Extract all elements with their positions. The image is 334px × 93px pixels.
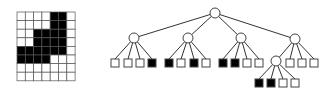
grid-cell-filled bbox=[34, 38, 42, 47]
grid-cell-empty bbox=[25, 21, 33, 30]
leaf-filled bbox=[148, 59, 156, 67]
leaf-filled bbox=[190, 59, 198, 67]
tree-nodes bbox=[129, 8, 300, 66]
grid-cell-filled bbox=[59, 29, 67, 38]
tree-leaves bbox=[111, 59, 318, 87]
grid-cell-filled bbox=[59, 38, 67, 47]
grid-cell-filled bbox=[17, 55, 25, 64]
grid-cell-filled bbox=[42, 38, 50, 47]
grid-cell-empty bbox=[25, 38, 33, 47]
grid-cell-empty bbox=[59, 72, 67, 81]
tree-node-nw bbox=[129, 33, 139, 43]
grid-cell-empty bbox=[17, 64, 25, 73]
grid-cell-empty bbox=[25, 72, 33, 81]
leaf-empty bbox=[202, 59, 210, 67]
leaf-empty bbox=[111, 59, 119, 67]
grid-cell-filled bbox=[50, 21, 58, 30]
grid-cell-filled bbox=[34, 46, 42, 55]
grid-cell-filled bbox=[50, 38, 58, 47]
quadtree-figure bbox=[0, 0, 334, 93]
grid-cell-empty bbox=[17, 72, 25, 81]
grid-cell-empty bbox=[50, 55, 58, 64]
grid-cell-empty bbox=[50, 64, 58, 73]
grid-cell-empty bbox=[67, 38, 75, 47]
grid-cell-filled bbox=[50, 29, 58, 38]
leaf-empty bbox=[124, 59, 132, 67]
leaf-filled bbox=[255, 79, 263, 87]
tree-edge bbox=[215, 13, 295, 39]
grid-cell-empty bbox=[67, 12, 75, 21]
grid-cell-empty bbox=[67, 55, 75, 64]
grid-cell-empty bbox=[67, 64, 75, 73]
tree-edges bbox=[115, 13, 314, 79]
grid-cell-empty bbox=[67, 46, 75, 55]
grid-cell-empty bbox=[34, 64, 42, 73]
tree-node-se bbox=[290, 34, 300, 44]
grid-cell-empty bbox=[34, 21, 42, 30]
grid-cell-empty bbox=[42, 12, 50, 21]
grid-cell-empty bbox=[25, 29, 33, 38]
grid-cell-empty bbox=[34, 12, 42, 21]
leaf-empty bbox=[136, 59, 144, 67]
grid-cell-empty bbox=[67, 72, 75, 81]
grid-cell-filled bbox=[50, 46, 58, 55]
leaf-empty bbox=[310, 59, 318, 67]
grid-cell-filled bbox=[42, 46, 50, 55]
leaf-filled bbox=[219, 59, 227, 67]
grid-cell-empty bbox=[59, 64, 67, 73]
grid-cell-filled bbox=[25, 46, 33, 55]
leaf-empty bbox=[286, 59, 294, 67]
grid-cell-empty bbox=[25, 12, 33, 21]
grid-cell-empty bbox=[50, 72, 58, 81]
tree-edge bbox=[134, 13, 215, 38]
leaf-filled bbox=[165, 59, 173, 67]
grid-cell-filled bbox=[59, 12, 67, 21]
grid-cell-filled bbox=[42, 29, 50, 38]
leaf-filled bbox=[231, 59, 239, 67]
grid-cell-filled bbox=[34, 29, 42, 38]
binary-image-grid bbox=[17, 12, 75, 81]
grid-cell-empty bbox=[17, 29, 25, 38]
tree-node-se_nw bbox=[271, 56, 281, 66]
grid-cell-filled bbox=[17, 46, 25, 55]
grid-cell-empty bbox=[34, 72, 42, 81]
leaf-empty bbox=[255, 59, 263, 67]
grid-cell-filled bbox=[34, 55, 42, 64]
grid-cell-empty bbox=[67, 29, 75, 38]
leaf-empty bbox=[279, 79, 287, 87]
grid-cell-empty bbox=[25, 64, 33, 73]
grid-cell-filled bbox=[42, 55, 50, 64]
grid-cell-filled bbox=[50, 12, 58, 21]
leaf-empty bbox=[177, 59, 185, 67]
grid-cell-empty bbox=[67, 21, 75, 30]
grid-cell-empty bbox=[42, 72, 50, 81]
grid-cell-filled bbox=[25, 55, 33, 64]
leaf-empty bbox=[298, 59, 306, 67]
tree-node-sw bbox=[236, 33, 246, 43]
grid-cell-empty bbox=[17, 21, 25, 30]
grid-cell-filled bbox=[59, 21, 67, 30]
grid-cell-empty bbox=[59, 55, 67, 64]
grid-cell-empty bbox=[17, 38, 25, 47]
grid-cell-empty bbox=[17, 12, 25, 21]
grid-cell-empty bbox=[42, 21, 50, 30]
leaf-empty bbox=[243, 59, 251, 67]
leaf-filled bbox=[267, 79, 275, 87]
tree-node-ne bbox=[183, 33, 193, 43]
tree-node-root bbox=[210, 8, 220, 18]
grid-cell-empty bbox=[42, 64, 50, 73]
grid-cell-filled bbox=[59, 46, 67, 55]
leaf-empty bbox=[291, 79, 299, 87]
